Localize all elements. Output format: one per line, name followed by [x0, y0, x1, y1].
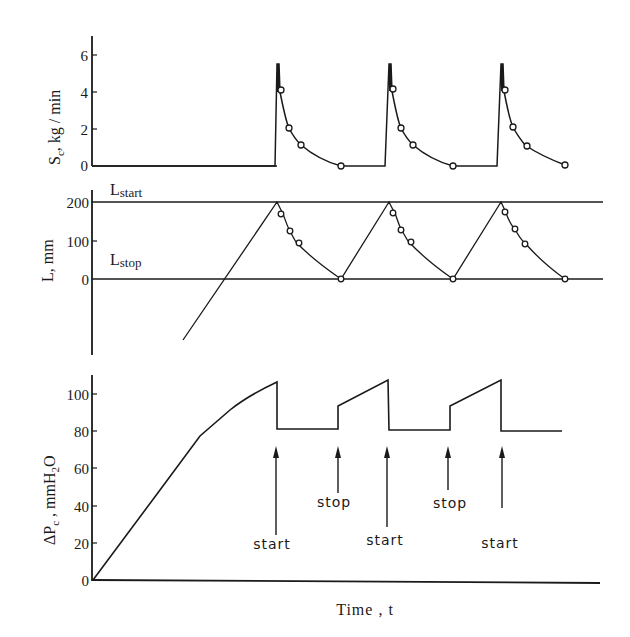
sc-y-axis-label: Sc, kg / min	[46, 90, 66, 165]
sc-tick-label: 4	[81, 85, 89, 101]
l-stop-label: Lstop	[110, 251, 141, 270]
dp-tick-label: 40	[74, 499, 89, 515]
l-panel: 200 100 0 L, mm Lstart Lstop	[39, 181, 603, 355]
l-tick-label: 200	[67, 195, 90, 211]
sc-panel: 6 4 2 0 Sc, kg / min	[46, 36, 568, 174]
l-tick-label: 0	[82, 272, 90, 288]
event-arrows	[273, 446, 505, 535]
start-label: start	[481, 535, 519, 551]
arrow-start-3-icon	[499, 446, 505, 508]
arrow-stop-2-icon	[445, 446, 451, 490]
dp-tick-label: 0	[82, 573, 90, 589]
arrow-stop-1-icon	[335, 446, 341, 493]
arrow-start-2-icon	[384, 446, 390, 527]
sc-tick-label: 0	[81, 158, 89, 174]
stop-label: stop	[317, 494, 351, 510]
dp-panel: 100 80 60 40 20 0 ΔPc , mmH2O	[41, 375, 600, 618]
l-series-line	[183, 202, 565, 340]
start-label: start	[366, 532, 404, 548]
l-y-axis-label: L, mm	[39, 239, 56, 282]
dp-y-axis-label: ΔPc , mmH2O	[41, 455, 61, 545]
l-tick-label: 100	[67, 234, 90, 250]
stop-label: stop	[433, 495, 467, 511]
x-axis-label: Time , t	[336, 601, 394, 618]
sc-series-line	[92, 64, 565, 166]
sc-tick-label: 2	[81, 122, 89, 138]
l-markers	[278, 209, 568, 282]
dp-tick-label: 60	[74, 461, 89, 477]
sc-tick-label: 6	[81, 48, 89, 64]
chart-svg: 6 4 2 0 Sc, kg / min 200 100 0 L, mm Lst…	[0, 0, 630, 637]
arrow-start-1-icon	[273, 446, 279, 535]
dp-tick-label: 20	[74, 536, 89, 552]
l-start-label: Lstart	[110, 181, 143, 200]
start-label: start	[253, 536, 291, 552]
dp-x-axis	[92, 580, 600, 583]
dp-tick-label: 100	[67, 387, 90, 403]
figure: 6 4 2 0 Sc, kg / min 200 100 0 L, mm Lst…	[0, 0, 630, 637]
sc-markers	[278, 86, 568, 169]
dp-tick-label: 80	[74, 424, 89, 440]
